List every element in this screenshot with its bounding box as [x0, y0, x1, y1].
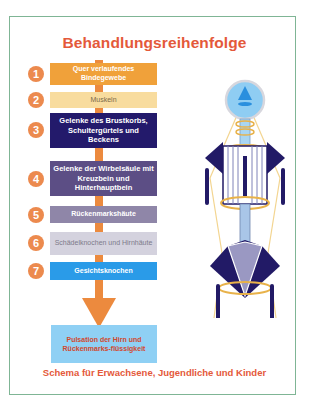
- down-arrow-icon: [82, 298, 116, 328]
- result-box-csf-pulsation: Pulsation der Hirn und Rückenmarks-flüss…: [51, 325, 157, 363]
- step-number-badge: 7: [28, 263, 44, 279]
- craniosacral-schematic-figure: [188, 78, 303, 318]
- step-box-skull-meninges: Schädelknochen und Hirnhäute: [50, 232, 157, 255]
- step-box-spine-joints: Gelenke der Wirbelsäule mit Kreuzbein un…: [50, 161, 157, 196]
- step-number-badge: 2: [28, 92, 44, 108]
- step-box-thorax-joints: Gelenke des Brustkorbs, Schultergürtels …: [50, 113, 157, 148]
- step-box-muscles: Muskeln: [50, 92, 157, 108]
- step-number-badge: 4: [28, 171, 44, 187]
- step-box-spinal-meninges: Rückenmarkshäute: [50, 206, 157, 223]
- step-number-badge: 1: [28, 66, 44, 82]
- step-number-badge: 5: [28, 207, 44, 223]
- step-number-badge: 3: [28, 122, 44, 138]
- step-box-facial-bones: Gesichtsknochen: [50, 262, 157, 280]
- diagram-title: Behandlungsreihenfolge: [0, 34, 309, 52]
- step-box-connective-tissue: Quer verlaufendes Bindegewebe: [50, 63, 157, 85]
- step-number-badge: 6: [28, 235, 44, 251]
- diagram-footer: Schema für Erwachsene, Jugendliche und K…: [0, 367, 309, 378]
